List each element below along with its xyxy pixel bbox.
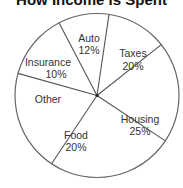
slice-label-name: Housing <box>121 113 160 125</box>
slice-taxes: Taxes 20% <box>119 47 146 72</box>
slice-label-pct: 10% <box>45 68 66 80</box>
pie-center <box>95 94 98 97</box>
slice-label-pct: 25% <box>129 125 150 137</box>
slice-label-name: Other <box>35 93 62 105</box>
pie-chart: Auto 12% Taxes 20% Housing 25% Food 20% … <box>0 0 183 188</box>
slice-label-name: Insurance <box>25 56 71 68</box>
slice-label-pct: 20% <box>65 141 86 153</box>
slice-auto: Auto 12% <box>78 32 100 56</box>
slice-label-name: Food <box>64 129 88 141</box>
slice-food: Food 20% <box>64 129 88 153</box>
slice-label-pct: 20% <box>122 60 143 72</box>
slice-label-name: Taxes <box>119 47 146 59</box>
slice-label-name: Auto <box>78 32 100 44</box>
slice-other: Other <box>35 93 62 105</box>
slice-label-pct: 12% <box>78 44 99 56</box>
